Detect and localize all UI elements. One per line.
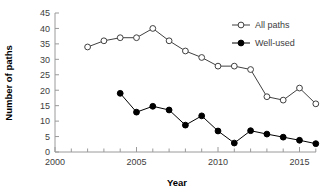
data-point [313,141,319,147]
data-point [199,113,205,119]
y-axis-tick-label: 45 [40,8,50,18]
x-axis-title: Year [167,177,187,188]
y-axis-tick-label: 30 [40,55,50,65]
data-point [264,94,270,100]
data-point [297,85,303,91]
data-point [199,55,205,61]
legend-marker [238,40,244,46]
y-axis-tick-label: 5 [45,132,50,142]
data-point [231,63,237,69]
data-point [150,103,156,109]
y-axis-tick-label: 15 [40,101,50,111]
data-point [166,107,172,113]
y-axis-tick-label: 20 [40,86,50,96]
data-point [313,101,319,107]
chart-container: 0510152025303540452000200520102015YearNu… [0,0,320,194]
y-axis-tick-label: 35 [40,39,50,49]
data-point [215,63,221,69]
x-axis-tick-label: 2005 [126,157,146,167]
data-point [231,140,237,146]
y-axis-tick-label: 0 [45,147,50,157]
data-point [117,35,123,41]
data-point [280,134,286,140]
data-point [101,38,107,44]
x-axis-tick-label: 2015 [289,157,309,167]
y-axis-tick-label: 40 [40,24,50,34]
data-point [183,48,189,54]
data-point [183,122,189,128]
data-point [248,128,254,134]
legend-item-all-paths: All paths [232,20,290,30]
data-point [248,67,254,73]
x-axis-tick-label: 2010 [208,157,228,167]
data-point [264,131,270,137]
data-point [85,44,91,50]
legend-item-well-used: Well-used [232,38,295,48]
data-point [280,97,286,103]
x-axis-tick-label: 2000 [45,157,65,167]
legend-label: Well-used [255,38,295,48]
y-axis-tick-label: 25 [40,70,50,80]
legend-label: All paths [255,20,290,30]
data-point [215,128,221,134]
series-well-used [117,90,318,146]
legend-marker [238,22,244,28]
data-point [134,109,140,115]
data-point [150,26,156,32]
line-chart: 0510152025303540452000200520102015YearNu… [0,0,320,194]
data-point [297,137,303,143]
data-point [117,90,123,96]
data-point [166,38,172,44]
data-point [134,35,140,41]
y-axis-tick-label: 10 [40,116,50,126]
y-axis-title: Number of paths [3,45,14,120]
